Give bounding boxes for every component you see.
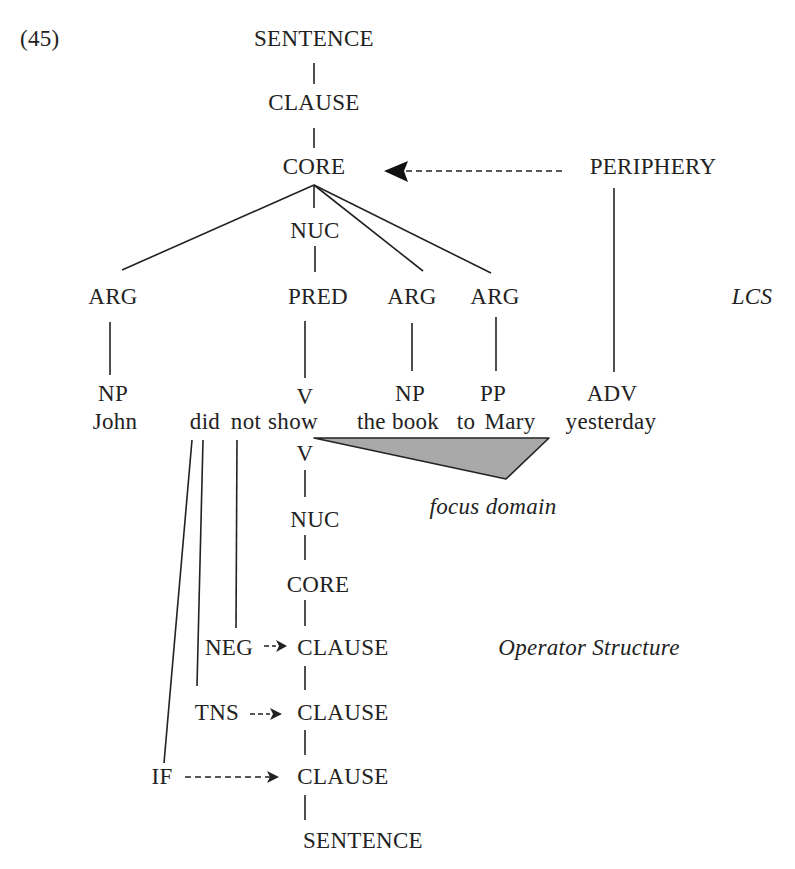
node-adv: ADV [587, 382, 638, 405]
node-arg-3: ARG [470, 285, 519, 308]
op-clause-neg: CLAUSE [297, 636, 388, 659]
edge-did-if [164, 440, 192, 763]
node-periphery: PERIPHERY [590, 155, 717, 178]
word-john: John [93, 410, 138, 433]
edge-core-arg3 [314, 185, 491, 273]
node-arg-1: ARG [88, 285, 137, 308]
op-node-core: CORE [287, 573, 350, 596]
edge-did-tns [197, 440, 203, 686]
node-clause: CLAUSE [268, 91, 359, 114]
arrowhead-icon [276, 640, 287, 652]
word-show: show [268, 410, 318, 433]
operator-structure-label: Operator Structure [498, 636, 680, 659]
edge-not-neg [236, 440, 237, 628]
example-number: (45) [20, 27, 60, 50]
op-clause-tns: CLAUSE [297, 701, 388, 724]
word-did: did [190, 410, 220, 433]
edge-core-arg1 [122, 185, 314, 270]
node-pred: PRED [288, 285, 348, 308]
node-np-1: NP [98, 382, 128, 405]
focus-domain-label: focus domain [430, 495, 557, 518]
op-if: IF [151, 765, 172, 788]
op-neg: NEG [205, 636, 253, 659]
node-pp: PP [480, 382, 506, 405]
node-core: CORE [283, 155, 346, 178]
node-np-2: NP [395, 382, 425, 405]
focus-domain-triangle [314, 438, 549, 479]
op-sentence: SENTENCE [303, 829, 423, 852]
node-nuc: NUC [290, 219, 339, 242]
arrowhead-icon [384, 161, 408, 182]
node-v: V [297, 385, 314, 408]
op-clause-if: CLAUSE [297, 765, 388, 788]
op-node-nuc: NUC [290, 508, 339, 531]
word-mary: Mary [484, 410, 535, 433]
word-the-book: the book [357, 410, 439, 433]
node-sentence: SENTENCE [254, 27, 374, 50]
arrowhead-icon [270, 708, 282, 720]
word-not: not [231, 410, 261, 433]
op-tns: TNS [195, 701, 239, 724]
word-to: to [457, 410, 476, 433]
op-node-v: V [297, 442, 314, 465]
lcs-label: LCS [732, 285, 773, 308]
word-yesterday: yesterday [566, 410, 657, 433]
node-arg-2: ARG [387, 285, 436, 308]
tree-lines [0, 0, 795, 869]
